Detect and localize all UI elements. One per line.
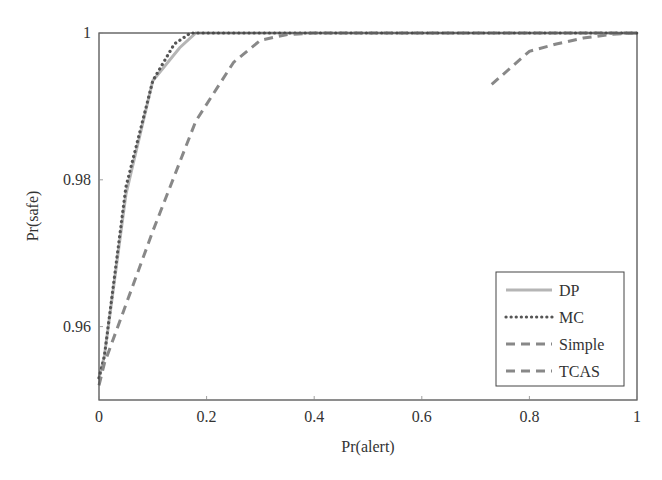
legend-label: DP <box>559 282 580 299</box>
legend: DPMCSimpleTCAS <box>496 272 624 386</box>
y-tick-label: 0.98 <box>63 171 91 188</box>
x-tick-label: 0.6 <box>412 408 432 425</box>
roc-chart: 00.20.40.60.810.960.981 Pr(alert) Pr(saf… <box>0 0 662 480</box>
y-tick-label: 0.96 <box>63 318 91 335</box>
x-axis-label: Pr(alert) <box>341 438 394 456</box>
x-tick-label: 0.8 <box>519 408 539 425</box>
legend-label: Simple <box>559 336 604 354</box>
y-axis-label: Pr(safe) <box>24 191 42 242</box>
y-tick-label: 1 <box>83 24 91 41</box>
series-tcas-line <box>492 33 637 84</box>
x-tick-label: 0.4 <box>304 408 324 425</box>
x-tick-label: 0 <box>95 408 103 425</box>
x-tick-label: 0.2 <box>197 408 217 425</box>
x-tick-label: 1 <box>633 408 641 425</box>
legend-label: MC <box>559 309 584 326</box>
legend-label: TCAS <box>559 363 600 380</box>
